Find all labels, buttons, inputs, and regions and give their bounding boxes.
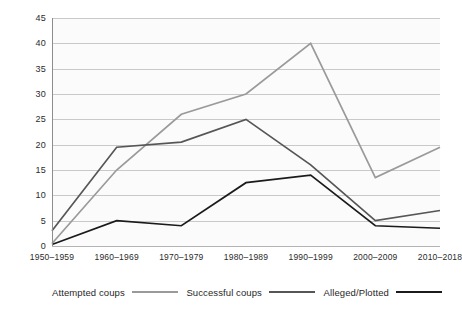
legend-swatch-successful-coups (269, 291, 315, 293)
plot-area (52, 18, 440, 246)
y-tick-label-40: 40 (0, 38, 46, 48)
legend-item-alleged-plotted[interactable]: Alleged/Plotted (324, 287, 442, 298)
y-tick-label-25: 25 (0, 114, 46, 124)
x-tick-label-3: 1980–1989 (224, 252, 268, 262)
y-tick-label-5: 5 (0, 216, 46, 226)
x-tick-label-6: 2010–2018 (418, 252, 462, 262)
gridline-0 (52, 246, 440, 247)
legend-label-attempted-coups: Attempted coups (52, 287, 125, 298)
legend-label-successful-coups: Successful coups (186, 287, 262, 298)
y-tick-label-30: 30 (0, 89, 46, 99)
y-tick-label-10: 10 (0, 190, 46, 200)
legend-item-attempted-coups[interactable]: Attempted coups (52, 287, 178, 298)
chart-legend: Attempted coupsSuccessful coupsAlleged/P… (52, 282, 442, 302)
legend-swatch-alleged-plotted (396, 291, 442, 293)
x-axis-tick-labels: 1950–19591960–19691970–19791980–19891990… (52, 252, 440, 268)
x-tick-label-5: 2000–2009 (353, 252, 397, 262)
series-line-attempted-coups (52, 43, 440, 243)
legend-label-alleged-plotted: Alleged/Plotted (324, 287, 389, 298)
y-tick-label-0: 0 (0, 241, 46, 251)
x-tick-label-1: 1960–1969 (94, 252, 138, 262)
x-tick-label-2: 1970–1979 (159, 252, 203, 262)
y-tick-label-45: 45 (0, 13, 46, 23)
x-tick-label-0: 1950–1959 (30, 252, 74, 262)
series-container (52, 18, 440, 246)
y-tick-label-35: 35 (0, 64, 46, 74)
y-tick-label-20: 20 (0, 140, 46, 150)
series-line-alleged-plotted (52, 175, 440, 244)
x-tick-label-4: 1990–1999 (288, 252, 332, 262)
y-axis-tick-labels: 051015202530354045 (0, 18, 46, 246)
legend-item-successful-coups[interactable]: Successful coups (186, 287, 315, 298)
legend-swatch-attempted-coups (132, 291, 178, 293)
y-axis-line (52, 18, 53, 246)
y-tick-label-15: 15 (0, 165, 46, 175)
